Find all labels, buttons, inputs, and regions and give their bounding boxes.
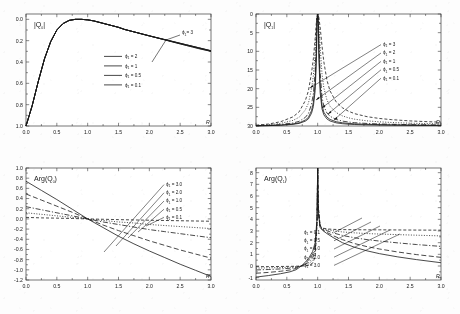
legend-value: = 0.5 [387,67,399,72]
y-tick-label: -0.4 [14,236,23,242]
legend-value: = 0.1 [129,83,141,88]
x-tick-label: 2.5 [177,129,184,135]
legend-value: = 1 [387,59,395,64]
plot-frame-top-right [256,14,441,126]
title-close: ) [285,175,287,183]
legend-value: = 3.0 [170,182,182,187]
x-tick-label: 2.5 [177,283,184,289]
y-tick-label: 6 [250,193,253,199]
legend-value: = 0.5 [170,207,182,212]
legend-value: = 2.0 [170,190,182,195]
x-axis-label-top-right: R [436,119,440,125]
panel-top-right: 0.00.51.01.52.02.53.0051015202530 |Q1| R… [230,2,460,157]
title-close: | [273,21,275,29]
x-tick-label: 0.5 [53,283,60,289]
x-tick-label: 0.0 [22,129,29,135]
y-tick-label: 0 [250,11,253,17]
y-tick-label: 0.6 [16,80,23,86]
svg-text:R: R [206,273,210,279]
legend-value: = 0.1 [308,230,320,235]
y-tick-label: 0.8 [16,175,23,181]
annotation-value: = 3 [186,30,193,35]
y-tick-label: 5 [250,205,253,211]
y-tick-label: 0.4 [16,59,23,65]
legend-value: = 2 [129,54,137,59]
svg-text:R: R [436,273,440,279]
x-tick-label: 2.0 [376,129,383,135]
plot-frame-bottom-left [26,168,211,280]
y-tick-label: 0 [250,263,253,269]
legend-value: = 2.0 [308,255,320,260]
legend-value: = 2 [387,50,395,55]
y-tick-label: -0.8 [14,257,23,263]
panel-bottom-right: 0.00.51.01.52.02.53.0876543210-1 Arg(Q1)… [230,158,460,313]
y-tick-label: -1.0 [14,267,23,273]
y-tick-label: 20 [247,86,253,92]
x-tick-label: 1.5 [115,129,122,135]
x-tick-label: 2.5 [407,129,414,135]
figure-canvas: 0.00.51.01.52.02.53.00.00.20.40.60.81.0 … [0,0,460,314]
x-tick-label: 0.5 [283,129,290,135]
x-tick-label: 3.0 [207,283,214,289]
y-tick-label: 0.6 [16,185,23,191]
y-tick-label: 0.0 [16,216,23,222]
legend-value: = 1.0 [170,198,182,203]
y-tick-label: 0.0 [16,16,23,22]
y-tick-label: 25 [247,104,253,110]
legend-value: = 0.1 [387,76,399,81]
y-tick-label: 10 [247,48,253,54]
x-tick-label: 1.5 [115,283,122,289]
y-tick-label: 15 [247,67,253,73]
y-tick-label: -1.2 [14,277,23,283]
x-tick-label: 1.0 [314,283,321,289]
y-tick-label: -0.2 [14,226,23,232]
x-tick-label: 1.0 [84,283,91,289]
legend-value: = 0.5 [308,238,320,243]
y-tick-label: 0.2 [16,38,23,44]
legend-value: = 3 [387,42,395,47]
x-tick-label: 1.5 [345,283,352,289]
y-tick-label: 1 [250,251,253,257]
y-tick-label: 3 [250,228,253,234]
y-tick-label: 4 [250,216,253,222]
y-tick-label: -1 [248,275,253,281]
legend-value: = 1 [129,64,137,69]
svg-text:R: R [436,119,440,125]
x-axis-label-top-left: R [206,119,210,125]
legend-value: = 0.5 [129,73,141,78]
x-tick-label: 0.0 [252,283,259,289]
title-main: Arg(Q [34,175,53,183]
y-tick-label: 0.4 [16,195,23,201]
y-tick-label: 0.8 [16,102,23,108]
y-tick-label: 5 [250,30,253,36]
y-tick-label: 1.0 [16,165,23,171]
y-tick-label: 0.2 [16,206,23,212]
x-tick-label: 0.5 [53,129,60,135]
y-tick-label: 8 [250,170,253,176]
y-tick-label: -0.6 [14,246,23,252]
legend-value: = 3.0 [308,263,320,268]
x-axis-label-bottom-left: R [206,273,210,279]
y-tick-label: 1.0 [16,123,23,129]
x-tick-label: 2.0 [146,129,153,135]
y-tick-label: 30 [247,123,253,129]
title-main: Arg(Q [264,175,283,183]
x-axis-label-bottom-right: R [436,273,440,279]
legend-value: = 0.1 [170,215,182,220]
x-tick-label: 0.0 [252,129,259,135]
y-tick-label: 7 [250,181,253,187]
plot-frame-bottom-right [256,168,441,280]
x-tick-label: 2.0 [146,283,153,289]
x-tick-label: 1.0 [84,129,91,135]
x-tick-label: 0.0 [22,283,29,289]
x-tick-label: 3.0 [207,129,214,135]
x-tick-label: 3.0 [437,283,444,289]
y-tick-label: 2 [250,240,253,246]
title-close: | [43,21,45,29]
x-tick-label: 0.5 [283,283,290,289]
x-tick-label: 2.5 [407,283,414,289]
panel-top-left: 0.00.51.01.52.02.53.00.00.20.40.60.81.0 … [0,2,230,157]
svg-text:R: R [206,119,210,125]
title-close: ) [55,175,57,183]
panel-bottom-left: 0.00.51.01.52.02.53.01.00.80.60.40.20.0-… [0,158,230,313]
